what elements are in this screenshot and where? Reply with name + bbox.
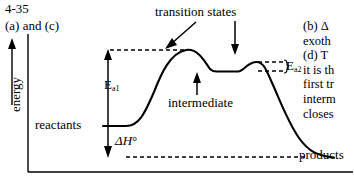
transition-states-label: transition states <box>155 5 236 18</box>
ea1-base: E <box>104 77 112 92</box>
delta-h-arrow <box>104 127 112 158</box>
activation-energy-1-label: Ea1 <box>104 78 120 93</box>
sidebar-line: first tr <box>303 77 354 92</box>
sidebar-line: it is th <box>303 63 354 78</box>
delta-h-text: ΔH <box>115 133 132 148</box>
ea2-base: E <box>286 58 294 73</box>
intermediate-label: intermediate <box>168 96 233 109</box>
degree-symbol: ° <box>132 133 137 148</box>
y-axis-label: energy <box>9 65 22 125</box>
products-label: products <box>299 148 344 161</box>
intermediate-pointer-arrow <box>193 72 201 95</box>
sidebar-line: (d) T <box>303 48 354 63</box>
ea2-subscript: a2 <box>294 65 302 74</box>
energy-diagram-figure: 4-35 (a) and (c) <box>0 0 354 180</box>
ea1-subscript: a1 <box>112 84 120 93</box>
sidebar-text-column: (b) Δ exoth (d) T it is th first tr inte… <box>303 19 354 121</box>
sidebar-line: closes <box>303 107 354 122</box>
transition-state-2-pointer-arrow <box>231 21 239 55</box>
sidebar-line: exoth <box>303 34 354 49</box>
sidebar-line: (b) Δ <box>303 19 354 34</box>
reactants-label: reactants <box>35 118 81 131</box>
activation-energy-2-label: Ea2 <box>286 59 302 74</box>
transition-state-1-pointer-arrow <box>165 22 196 49</box>
enthalpy-change-label: ΔH° <box>115 134 137 147</box>
sidebar-line: interm <box>303 92 354 107</box>
